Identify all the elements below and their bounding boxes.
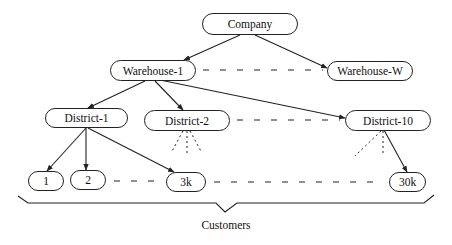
node-warehouse-1: Warehouse-1 bbox=[110, 60, 196, 81]
node-customer-2: 2 bbox=[70, 170, 106, 190]
node-customer-3k: 3k bbox=[166, 172, 206, 192]
node-customer-30k-label: 30k bbox=[399, 176, 416, 188]
node-district-1-label: District-1 bbox=[64, 112, 108, 124]
node-district-2: District-2 bbox=[144, 110, 230, 131]
edge-warehouse-1-district-1 bbox=[88, 81, 145, 108]
node-customer-1: 1 bbox=[28, 171, 64, 191]
edge-district-10-customer-30k bbox=[384, 130, 407, 172]
node-customer-2-label: 2 bbox=[85, 174, 91, 186]
node-warehouse-w-label: Warehouse-W bbox=[337, 65, 403, 77]
node-warehouse-w: Warehouse-W bbox=[327, 61, 413, 81]
fan-district-10-left bbox=[355, 131, 381, 156]
node-district-10-label: District-10 bbox=[363, 115, 413, 127]
node-customer-3k-label: 3k bbox=[180, 176, 192, 188]
node-customer-30k: 30k bbox=[389, 172, 426, 192]
fan-district-2-left bbox=[171, 131, 183, 153]
node-customer-1-label: 1 bbox=[43, 175, 49, 187]
node-district-2-label: District-2 bbox=[165, 115, 209, 127]
hierarchy-diagram: Company Warehouse-1 Warehouse-W District… bbox=[0, 0, 452, 245]
edge-district-1-customer-1 bbox=[47, 128, 86, 171]
edge-warehouse-1-district-2 bbox=[155, 81, 183, 110]
node-warehouse-1-label: Warehouse-1 bbox=[123, 65, 183, 77]
node-company-label: Company bbox=[228, 18, 273, 30]
fan-district-2-right bbox=[190, 131, 202, 153]
customers-group-label: Customers bbox=[201, 219, 250, 231]
edge-district-1-customer-3k bbox=[88, 128, 174, 172]
node-district-10: District-10 bbox=[345, 110, 431, 131]
customers-brace bbox=[18, 195, 434, 212]
node-district-1: District-1 bbox=[45, 108, 128, 128]
edge-company-warehouse-1 bbox=[184, 35, 240, 60]
edge-company-warehouse-w bbox=[255, 35, 327, 68]
node-company: Company bbox=[202, 13, 298, 35]
